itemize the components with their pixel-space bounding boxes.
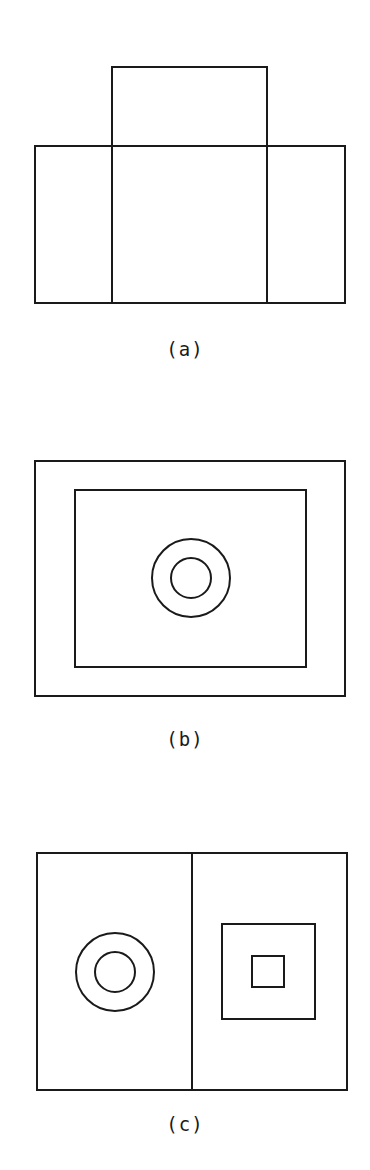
main-rectangle [35,146,345,303]
outer-rectangle [35,461,345,696]
inner-circle [171,558,211,598]
top-box [112,67,267,146]
figure-b-label: (b) [0,728,370,750]
figure-b [35,461,345,696]
figure-a-label: (a) [0,338,370,360]
figure-c [37,853,347,1090]
outer-circle [152,539,230,617]
diagram-canvas [0,0,370,1170]
figure-a [35,67,345,303]
outer-square [222,924,315,1019]
inner-square [252,956,284,987]
inner-rectangle [75,490,306,667]
inner-circle [95,952,135,992]
outer-circle [76,933,154,1011]
figure-c-label: (c) [0,1113,370,1135]
